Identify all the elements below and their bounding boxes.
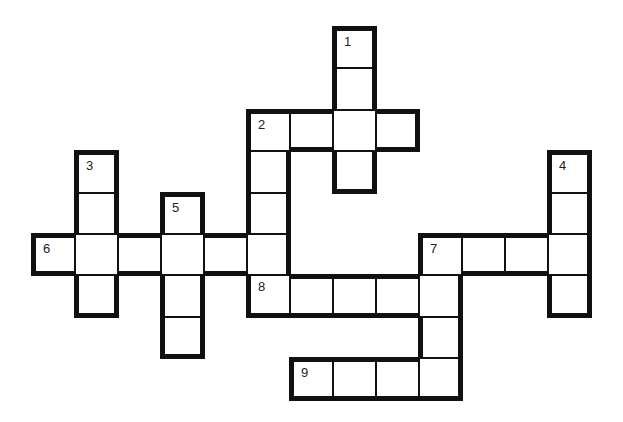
crossword-cell[interactable]: 7: [418, 233, 463, 276]
crossword-cell[interactable]: [203, 233, 248, 276]
crossword-cell[interactable]: 6: [31, 233, 76, 276]
crossword-cell[interactable]: [246, 233, 291, 276]
crossword-cell[interactable]: [160, 316, 205, 359]
crossword-cell[interactable]: 3: [74, 150, 119, 193]
crossword-cell[interactable]: [117, 233, 162, 276]
crossword-cell[interactable]: [332, 274, 377, 317]
clue-number: 7: [430, 242, 437, 255]
crossword-cell[interactable]: 5: [160, 192, 205, 235]
clue-number: 1: [344, 35, 351, 48]
crossword-cell[interactable]: [289, 109, 334, 152]
crossword-cell[interactable]: [547, 233, 592, 276]
crossword-cell[interactable]: 4: [547, 150, 592, 193]
crossword-cell[interactable]: [246, 150, 291, 193]
crossword-cell[interactable]: [332, 67, 377, 110]
crossword-cell[interactable]: [375, 274, 420, 317]
crossword-cell[interactable]: [547, 192, 592, 235]
crossword-cell[interactable]: [504, 233, 549, 276]
crossword-cell[interactable]: 1: [332, 26, 377, 69]
crossword-cell[interactable]: 9: [289, 357, 334, 400]
clue-number: 6: [43, 242, 50, 255]
crossword-grid: 123456789: [0, 0, 623, 422]
crossword-cell[interactable]: [375, 109, 420, 152]
crossword-cell[interactable]: [547, 274, 592, 317]
crossword-cell[interactable]: [332, 109, 377, 152]
crossword-cell[interactable]: [74, 233, 119, 276]
crossword-cell[interactable]: [289, 274, 334, 317]
crossword-cell[interactable]: [418, 357, 463, 400]
clue-number: 9: [301, 366, 308, 379]
clue-number: 4: [559, 159, 566, 172]
clue-number: 2: [258, 118, 265, 131]
crossword-cell[interactable]: [332, 357, 377, 400]
clue-number: 5: [172, 201, 179, 214]
crossword-cell[interactable]: 2: [246, 109, 291, 152]
crossword-cell[interactable]: [375, 357, 420, 400]
crossword-cell[interactable]: 8: [246, 274, 291, 317]
crossword-cell[interactable]: [418, 316, 463, 359]
crossword-cell[interactable]: [461, 233, 506, 276]
clue-number: 3: [86, 159, 93, 172]
crossword-cell[interactable]: [160, 233, 205, 276]
crossword-cell[interactable]: [74, 192, 119, 235]
clue-number: 8: [258, 280, 265, 293]
crossword-cell[interactable]: [332, 150, 377, 193]
crossword-cell[interactable]: [160, 274, 205, 317]
crossword-cell[interactable]: [74, 274, 119, 317]
crossword-cell[interactable]: [246, 192, 291, 235]
crossword-cell[interactable]: [418, 274, 463, 317]
